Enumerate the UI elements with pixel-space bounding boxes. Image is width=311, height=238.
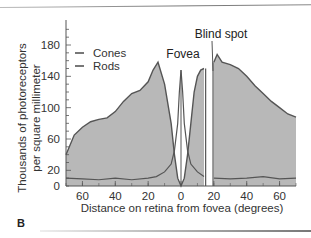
svg-text:40: 40: [109, 190, 122, 202]
legend-rods-label: Rods: [93, 60, 120, 72]
y-axis-title-line1: Thousands of photoreceptors: [16, 43, 28, 193]
svg-text:140: 140: [41, 70, 60, 82]
x-axis-title: Distance on retina from fovea (degrees): [81, 202, 284, 214]
svg-text:100: 100: [41, 102, 60, 114]
svg-text:0: 0: [178, 190, 184, 202]
rods-area: [214, 54, 296, 186]
svg-text:20: 20: [142, 190, 155, 202]
chart: 020601001401806040200204060 Distance on …: [0, 0, 311, 238]
svg-text:180: 180: [41, 39, 60, 51]
fovea-annotation: Fovea: [166, 47, 200, 61]
svg-text:40: 40: [240, 190, 253, 202]
panel-label: B: [17, 217, 25, 229]
svg-text:0: 0: [54, 180, 60, 192]
blind-spot-annotation: Blind spot: [195, 27, 248, 41]
bottom-rule: [40, 230, 311, 232]
svg-text:60: 60: [47, 133, 60, 145]
svg-text:60: 60: [273, 190, 286, 202]
y-axis-title-line2: per square millimeter: [30, 64, 42, 172]
legend: Cones Rods: [75, 47, 126, 72]
svg-text:60: 60: [76, 190, 89, 202]
svg-text:20: 20: [207, 190, 220, 202]
legend-cones-label: Cones: [93, 47, 126, 59]
svg-text:20: 20: [47, 164, 60, 176]
blind-spot-gap: [206, 40, 213, 186]
